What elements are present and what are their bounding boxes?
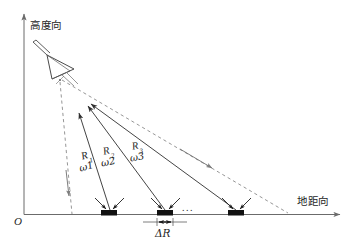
y-axis-label: 高度向 [30,20,62,31]
axis-group [24,14,340,215]
target-ellipsis: ... [182,203,194,213]
beam-dashed-line [62,80,288,213]
delta-r-marker [143,218,187,226]
figure-diagram: 高度向 地距向 O R1 ω1 R2 ω2 R3 ω3 ... ΔR [0,0,351,247]
x-axis-label: 地距向 [297,196,329,207]
nadir-dashed-line [60,82,72,214]
target-2 [151,198,180,216]
delta-r-label: ΔR [155,228,171,239]
target-1 [95,198,124,216]
target-3 [222,198,251,216]
diagram-canvas [0,0,351,247]
range-symbol-3: R [131,140,139,152]
radar-antenna [33,40,78,86]
origin-label: O [14,216,22,227]
